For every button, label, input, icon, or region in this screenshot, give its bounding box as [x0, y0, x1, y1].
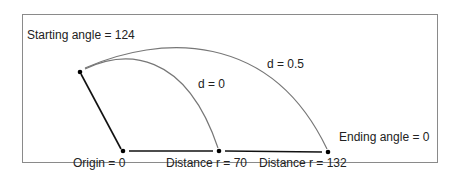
origin-point	[121, 149, 126, 154]
curve-d05-label: d = 0.5	[267, 57, 304, 71]
r70-to-r132-line	[225, 151, 322, 152]
ending-angle-label: Ending angle = 0	[339, 130, 429, 144]
start-point	[78, 70, 83, 75]
distance-70-label: Distance r = 70	[166, 156, 247, 170]
curve-d0	[85, 59, 218, 148]
origin-label: Origin = 0	[73, 156, 125, 170]
distance-132-label: Distance r = 132	[259, 156, 347, 170]
r70-point	[217, 149, 222, 154]
start-to-origin-line	[81, 74, 121, 149]
curve-d0-label: d = 0	[198, 77, 225, 91]
starting-angle-label: Starting angle = 124	[27, 28, 135, 42]
r132-point	[326, 150, 331, 155]
